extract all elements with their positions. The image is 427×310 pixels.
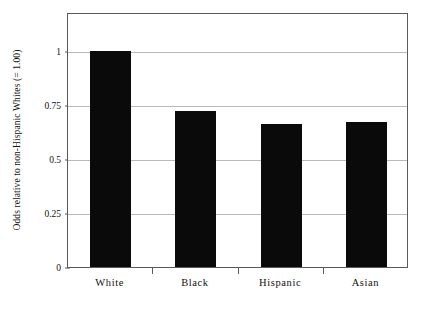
y-axis-tick-label: 0	[56, 263, 61, 273]
plot-area	[67, 13, 408, 268]
y-axis-ticks: 00.250.50.751	[34, 13, 64, 268]
y-axis-title-container: Odds relative to non-Hispanic Whites (= …	[0, 0, 34, 280]
x-axis-tick-mark	[238, 268, 239, 274]
x-axis: WhiteBlackHispanicAsian	[67, 268, 408, 308]
y-axis-tick-label: 1	[56, 47, 61, 57]
y-axis-tick-label: 0.75	[44, 101, 61, 111]
x-axis-category-label: Black	[181, 277, 209, 288]
y-axis-title: Odds relative to non-Hispanic Whites (= …	[12, 50, 22, 231]
bar	[261, 124, 302, 267]
y-axis-tick-label: 0.25	[44, 209, 61, 219]
bar	[175, 111, 216, 267]
bar-series	[68, 14, 407, 267]
x-axis-category-label: Asian	[352, 277, 380, 288]
x-axis-tick-mark	[323, 268, 324, 274]
chart-figure: Odds relative to non-Hispanic Whites (= …	[0, 0, 427, 310]
x-axis-category-label: Hispanic	[259, 277, 301, 288]
y-axis-tick-label: 0.5	[49, 155, 61, 165]
x-axis-category-label: White	[95, 277, 124, 288]
bar	[90, 51, 131, 267]
bar	[346, 122, 387, 267]
x-axis-tick-mark	[152, 268, 153, 274]
